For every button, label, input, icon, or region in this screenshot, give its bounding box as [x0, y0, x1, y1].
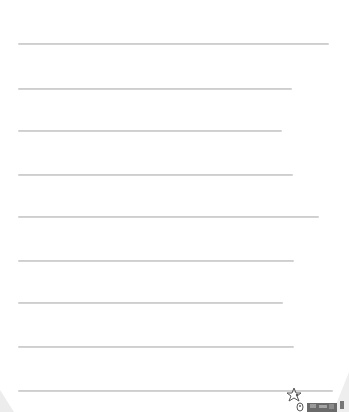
ruled-line-5: [18, 216, 319, 218]
star-and-critters-icon: [286, 386, 346, 412]
lined-paper-page: [0, 0, 349, 412]
ruled-line-6: [18, 260, 294, 262]
page-curl-left: [0, 390, 14, 412]
ruled-line-2: [18, 88, 292, 90]
ruled-line-3: [18, 130, 282, 132]
ruled-line-1: [18, 43, 329, 45]
ruled-line-8: [18, 346, 294, 348]
ruled-line-7: [18, 302, 283, 304]
ruled-line-4: [18, 174, 293, 176]
